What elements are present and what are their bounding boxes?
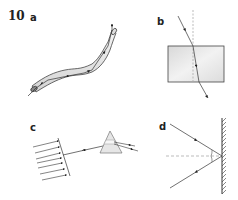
panel-b-glass-block: [168, 10, 224, 98]
mirror-hatch: [222, 118, 226, 194]
fibre-body: [32, 30, 116, 92]
diagram-canvas: [0, 0, 238, 200]
panel-d-mirror: [166, 118, 226, 194]
angle-of-reflection-arc: [211, 156, 212, 162]
dispersed-ray-arrow-2: [130, 149, 132, 150]
prism-ray-arrow: [82, 150, 85, 151]
panel-c-prism: [33, 131, 138, 180]
panel-a-optical-fibre: [28, 24, 118, 96]
wavefront-line: [58, 138, 70, 176]
incident-ray-arrow: [184, 28, 185, 30]
angle-of-incidence-arc: [211, 150, 212, 156]
